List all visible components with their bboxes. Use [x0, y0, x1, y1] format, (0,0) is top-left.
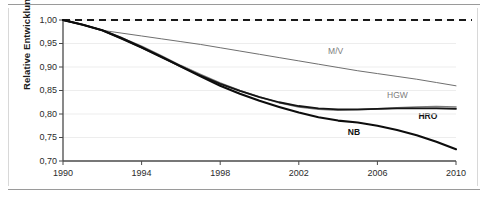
- chart-figure: Relative Entwicklung 0,700,750,800,850,9…: [0, 0, 488, 197]
- axis-ticks: [59, 20, 456, 165]
- series-curves: [63, 20, 456, 149]
- chart-plot-area: [0, 0, 488, 197]
